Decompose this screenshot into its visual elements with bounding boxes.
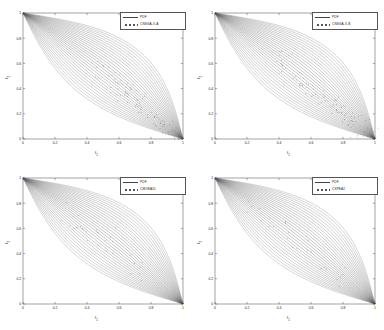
svg-text:0.8: 0.8 bbox=[208, 37, 213, 41]
svg-text:0.4: 0.4 bbox=[208, 87, 213, 91]
legend-line-swatch-icon bbox=[123, 15, 138, 21]
svg-text:0.6: 0.6 bbox=[117, 306, 122, 310]
legend-entry-pdf: PDF bbox=[315, 179, 375, 186]
svg-text:0.8: 0.8 bbox=[341, 306, 346, 310]
xaxis-label-sub: 1 bbox=[96, 153, 98, 157]
legend-dots-swatch-icon bbox=[315, 187, 330, 193]
legend-entry-pdf: PDF bbox=[123, 14, 183, 21]
svg-text:0: 0 bbox=[211, 137, 213, 141]
svg-text:0.4: 0.4 bbox=[16, 87, 21, 91]
yaxis-label-top-left: f2 bbox=[4, 76, 11, 79]
svg-text:0.4: 0.4 bbox=[85, 141, 90, 145]
legend-label-pdf: PDF bbox=[332, 14, 339, 21]
yaxis-label-bottom-right: f2 bbox=[196, 241, 203, 244]
legend-entry-algorithm: CMOEA/D bbox=[123, 186, 183, 193]
svg-text:0.2: 0.2 bbox=[53, 306, 58, 310]
svg-text:1: 1 bbox=[19, 176, 21, 180]
legend-dots-swatch-icon bbox=[123, 22, 138, 28]
legend-label-pdf: PDF bbox=[140, 179, 147, 186]
svg-text:0: 0 bbox=[22, 141, 24, 145]
svg-text:1: 1 bbox=[211, 176, 213, 180]
svg-text:0.8: 0.8 bbox=[341, 141, 346, 145]
legend-entry-pdf: PDF bbox=[315, 14, 375, 21]
legend-line-swatch-icon bbox=[315, 15, 330, 21]
legend-bottom-left: PDF CMOEA/D bbox=[120, 177, 186, 195]
svg-text:0: 0 bbox=[211, 302, 213, 306]
xaxis-label-sub: 1 bbox=[288, 318, 290, 322]
legend-line-swatch-icon bbox=[123, 180, 138, 186]
svg-text:0.4: 0.4 bbox=[277, 306, 282, 310]
yaxis-label-sub: 2 bbox=[7, 241, 11, 243]
yaxis-label-sub: 2 bbox=[199, 76, 203, 78]
svg-text:0.2: 0.2 bbox=[16, 277, 21, 281]
svg-text:0.8: 0.8 bbox=[208, 202, 213, 206]
svg-text:0.4: 0.4 bbox=[85, 306, 90, 310]
legend-entry-algorithm: CSPEA2 bbox=[315, 186, 375, 193]
svg-text:0.2: 0.2 bbox=[245, 141, 250, 145]
svg-text:1: 1 bbox=[19, 11, 21, 15]
xaxis-label-top-right: f1 bbox=[287, 150, 290, 157]
svg-text:0.6: 0.6 bbox=[16, 62, 21, 66]
legend-label-algorithm: CNSGA-II-A bbox=[140, 21, 158, 28]
svg-text:0: 0 bbox=[214, 141, 216, 145]
svg-text:0.2: 0.2 bbox=[208, 112, 213, 116]
xaxis-label-top-left: f1 bbox=[95, 150, 98, 157]
svg-text:0.4: 0.4 bbox=[208, 252, 213, 256]
svg-text:0.6: 0.6 bbox=[117, 141, 122, 145]
legend-label-algorithm: CSPEA2 bbox=[332, 186, 345, 193]
legend-entry-algorithm: CNSGA-II-B bbox=[315, 21, 375, 28]
legend-label-pdf: PDF bbox=[332, 179, 339, 186]
yaxis-label-sub: 2 bbox=[199, 241, 203, 243]
legend-top-right: PDF CNSGA-II-B bbox=[312, 12, 378, 30]
panel-top-left: 00.20.40.60.8100.20.40.60.81 PDF CNSGA-I… bbox=[0, 0, 192, 165]
svg-text:0.6: 0.6 bbox=[309, 306, 314, 310]
svg-text:0.4: 0.4 bbox=[277, 141, 282, 145]
yaxis-label-bottom-left: f2 bbox=[4, 241, 11, 244]
svg-text:1: 1 bbox=[182, 141, 184, 145]
svg-text:0.8: 0.8 bbox=[149, 306, 154, 310]
svg-text:0.2: 0.2 bbox=[16, 112, 21, 116]
xaxis-label-bottom-right: f1 bbox=[287, 315, 290, 322]
xaxis-label-bottom-left: f1 bbox=[95, 315, 98, 322]
svg-text:0.8: 0.8 bbox=[16, 202, 21, 206]
legend-top-left: PDF CNSGA-II-A bbox=[120, 12, 186, 30]
svg-text:1: 1 bbox=[374, 306, 376, 310]
svg-text:0: 0 bbox=[19, 302, 21, 306]
legend-label-algorithm: CMOEA/D bbox=[140, 186, 156, 193]
svg-text:0.6: 0.6 bbox=[208, 227, 213, 231]
svg-text:0.6: 0.6 bbox=[16, 227, 21, 231]
xaxis-label-sub: 1 bbox=[96, 318, 98, 322]
yaxis-label-sub: 2 bbox=[7, 76, 11, 78]
svg-text:1: 1 bbox=[374, 141, 376, 145]
panel-bottom-left: 00.20.40.60.8100.20.40.60.81 PDF CMOEA/D… bbox=[0, 165, 192, 330]
figure-grid: 00.20.40.60.8100.20.40.60.81 PDF CNSGA-I… bbox=[0, 0, 384, 330]
svg-text:0: 0 bbox=[19, 137, 21, 141]
svg-text:0: 0 bbox=[214, 306, 216, 310]
xaxis-label-sub: 1 bbox=[288, 153, 290, 157]
svg-text:0.6: 0.6 bbox=[208, 62, 213, 66]
legend-line-swatch-icon bbox=[315, 180, 330, 186]
legend-label-algorithm: CNSGA-II-B bbox=[332, 21, 350, 28]
svg-text:0.4: 0.4 bbox=[16, 252, 21, 256]
svg-text:1: 1 bbox=[211, 11, 213, 15]
svg-text:0.2: 0.2 bbox=[53, 141, 58, 145]
svg-text:1: 1 bbox=[182, 306, 184, 310]
panel-top-right: 00.20.40.60.8100.20.40.60.81 PDF CNSGA-I… bbox=[192, 0, 384, 165]
svg-text:0.2: 0.2 bbox=[208, 277, 213, 281]
yaxis-label-top-right: f2 bbox=[196, 76, 203, 79]
legend-dots-swatch-icon bbox=[123, 187, 138, 193]
legend-bottom-right: PDF CSPEA2 bbox=[312, 177, 378, 195]
panel-bottom-right: 00.20.40.60.8100.20.40.60.81 PDF CSPEA2 … bbox=[192, 165, 384, 330]
legend-entry-algorithm: CNSGA-II-A bbox=[123, 21, 183, 28]
svg-text:0.8: 0.8 bbox=[149, 141, 154, 145]
svg-text:0.2: 0.2 bbox=[245, 306, 250, 310]
legend-dots-swatch-icon bbox=[315, 22, 330, 28]
svg-text:0.8: 0.8 bbox=[16, 37, 21, 41]
svg-text:0.6: 0.6 bbox=[309, 141, 314, 145]
legend-label-pdf: PDF bbox=[140, 14, 147, 21]
svg-text:0: 0 bbox=[22, 306, 24, 310]
legend-entry-pdf: PDF bbox=[123, 179, 183, 186]
